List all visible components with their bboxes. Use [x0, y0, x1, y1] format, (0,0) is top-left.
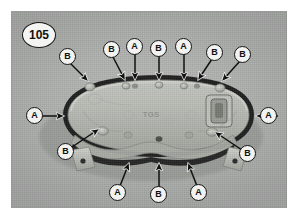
leaders-group — [42, 54, 278, 188]
callout-a-top-left[interactable]: A — [126, 38, 143, 55]
callout-a-bottom-left[interactable]: A — [109, 184, 126, 201]
callout-b-top-right-outer[interactable]: B — [234, 46, 251, 63]
figure-number-badge: 105 — [22, 22, 56, 48]
figure-page: TGS — [0, 0, 297, 219]
callout-b-top-center[interactable]: B — [150, 40, 167, 57]
callout-b-bottom-center[interactable]: B — [150, 186, 167, 203]
callout-b-lower-left[interactable]: B — [57, 143, 74, 160]
callout-a-left[interactable]: A — [26, 107, 43, 124]
callout-a-right[interactable]: A — [260, 107, 277, 124]
callout-b-top-left[interactable]: B — [103, 41, 120, 58]
figure-photo: TGS — [11, 11, 287, 208]
callout-b-lower-right[interactable]: B — [239, 145, 256, 162]
callout-b-top-right[interactable]: B — [206, 44, 223, 61]
callout-a-top-right[interactable]: A — [175, 38, 192, 55]
callout-b-top-left-outer[interactable]: B — [59, 48, 76, 65]
callout-a-bottom-right[interactable]: A — [190, 184, 207, 201]
